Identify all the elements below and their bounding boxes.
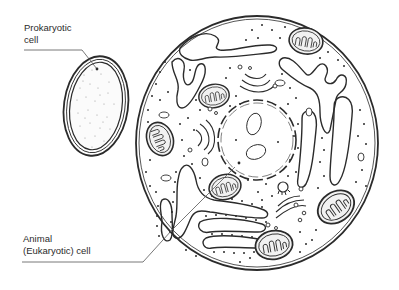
prokaryotic-label-line2: cell	[24, 34, 72, 46]
eukaryotic-cell-label: Animal (Eukaryotic) cell	[23, 233, 91, 257]
eukaryotic-label-line1: Animal	[23, 233, 91, 245]
cell-diagram: Prokaryotic cell Animal (Eukaryotic) cel…	[0, 0, 399, 290]
prokaryotic-label-line1: Prokaryotic	[24, 22, 72, 34]
eukaryotic-cell	[136, 16, 378, 270]
prokaryotic-cell-label: Prokaryotic cell	[24, 22, 72, 46]
eukaryotic-label-line2: (Eukaryotic) cell	[23, 245, 91, 257]
